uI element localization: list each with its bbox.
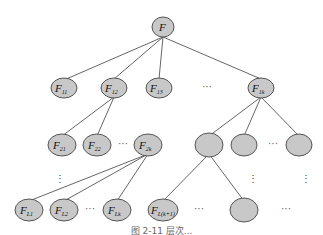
node-f2k: F2k bbox=[134, 134, 162, 156]
node-f21: F21 bbox=[48, 134, 76, 156]
edges-root bbox=[64, 37, 261, 80]
edges-f1k bbox=[209, 97, 299, 136]
node-f11: F11 bbox=[51, 78, 77, 98]
node-blank-1 bbox=[195, 133, 223, 157]
ellipsis-leaves-1: ··· bbox=[85, 203, 95, 214]
edges-blank bbox=[163, 154, 244, 201]
node-root: F bbox=[152, 17, 174, 37]
ellipsis-leaves-2: ··· bbox=[194, 203, 204, 214]
node-flk1: FL(k+1) bbox=[148, 199, 178, 221]
tree-diagram: F F11 F12 F13 ··· F1k F21 F22 ··· F2k ··… bbox=[0, 0, 323, 235]
ellipsis-level2-left: ··· bbox=[118, 138, 128, 149]
node-fl2: FL2 bbox=[50, 199, 78, 221]
node-f13: F13 bbox=[146, 78, 172, 98]
node-f1k: F1k bbox=[248, 78, 274, 98]
vertical-ellipsis-left: ⋮ bbox=[55, 173, 65, 184]
node-f12: F12 bbox=[101, 78, 127, 98]
vertical-ellipsis-right: ⋮ bbox=[301, 173, 311, 184]
node-blank-3 bbox=[286, 134, 312, 156]
vertical-ellipsis-mid: ⋮ bbox=[248, 173, 258, 184]
svg-text:F: F bbox=[158, 21, 166, 33]
edges-f12 bbox=[62, 97, 114, 136]
node-blank-leaf bbox=[230, 198, 258, 222]
node-f22: F22 bbox=[83, 134, 111, 156]
node-flk: FLk bbox=[103, 199, 131, 221]
ellipsis-level2-right: ··· bbox=[268, 138, 278, 149]
node-fl1: FL1 bbox=[15, 199, 43, 221]
edges-f2k bbox=[29, 154, 148, 201]
ellipsis-leaves-3: ··· bbox=[281, 203, 291, 214]
figure-caption: 图 2-11 层次... bbox=[0, 224, 323, 235]
ellipsis-level1: ··· bbox=[202, 81, 212, 92]
node-blank-2 bbox=[231, 134, 257, 156]
